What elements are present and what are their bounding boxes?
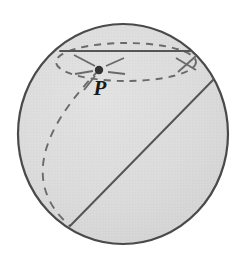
point-p-marker <box>95 66 103 74</box>
point-p-label: P <box>93 76 107 100</box>
sphere-diagram-canvas: P <box>0 0 241 275</box>
sphere-diagram-figure: P <box>0 0 241 275</box>
